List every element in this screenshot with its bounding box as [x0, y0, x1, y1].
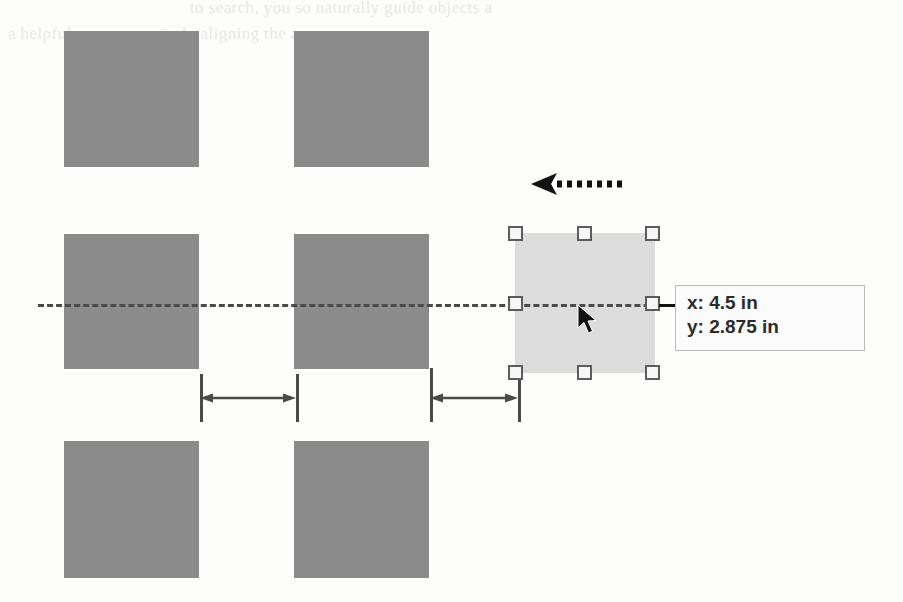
- handle-bottom-center[interactable]: [577, 365, 592, 380]
- spacing-dimension-left-extension-end: [296, 374, 299, 422]
- spacing-dimension-left: [200, 388, 296, 408]
- scanned-figure-canvas: to search, you so naturally guide object…: [0, 0, 903, 602]
- handle-middle-right[interactable]: [645, 296, 660, 311]
- tooltip-x-value: x: 4.5 in: [687, 291, 854, 315]
- handle-top-right[interactable]: [645, 226, 660, 241]
- spacing-dimension-right: [430, 388, 518, 408]
- handle-bottom-left[interactable]: [508, 365, 523, 380]
- coordinate-tooltip: x: 4.5 in y: 2.875 in: [675, 285, 865, 351]
- ghost-text-line-1: to search, you so naturally guide object…: [190, 0, 492, 18]
- object-row1-col2[interactable]: [294, 31, 429, 167]
- object-row3-col2[interactable]: [294, 441, 429, 578]
- object-row3-col1[interactable]: [64, 441, 199, 578]
- object-row1-col1[interactable]: [64, 31, 199, 167]
- object-row2-col2[interactable]: [294, 234, 429, 369]
- handle-bottom-right[interactable]: [645, 365, 660, 380]
- object-row2-col1[interactable]: [64, 234, 199, 369]
- handle-top-center[interactable]: [577, 226, 592, 241]
- tooltip-leader-line: [659, 304, 676, 307]
- handle-top-left[interactable]: [508, 226, 523, 241]
- selected-object[interactable]: [515, 233, 655, 373]
- handle-middle-left[interactable]: [508, 296, 523, 311]
- drag-direction-arrow: [531, 171, 625, 197]
- tooltip-y-value: y: 2.875 in: [687, 315, 854, 339]
- mouse-pointer: [577, 305, 599, 335]
